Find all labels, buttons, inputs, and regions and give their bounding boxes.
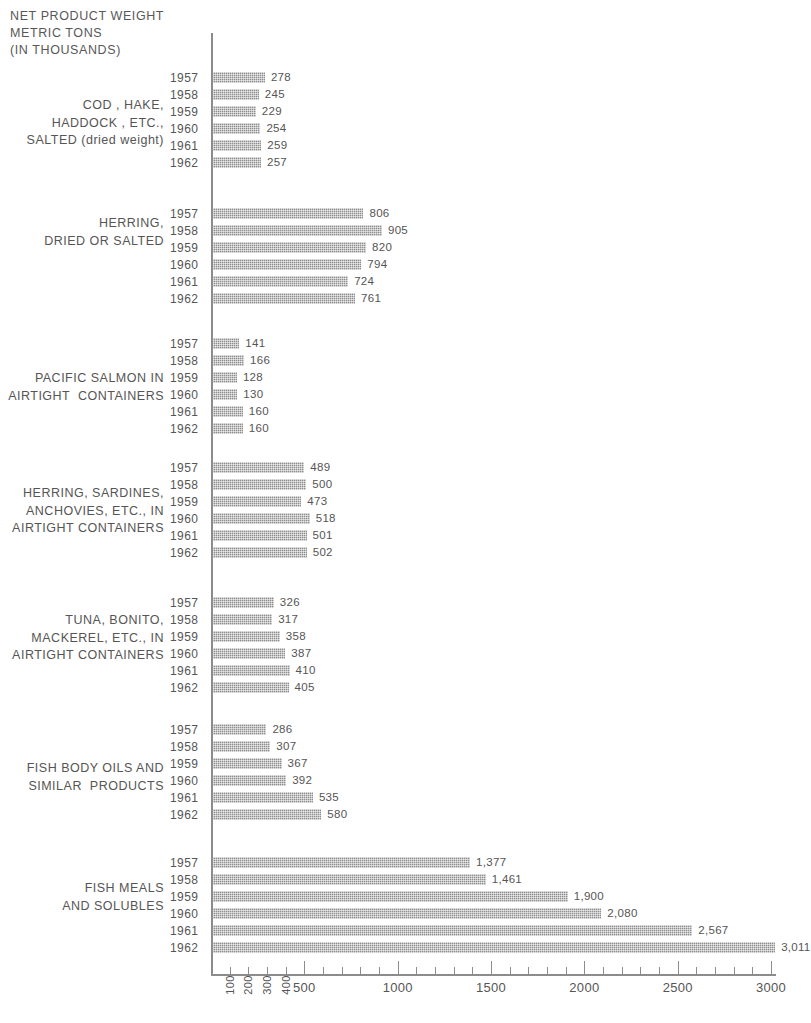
bar bbox=[213, 406, 243, 417]
chart-group: COD , HAKE, HADDOCK , ETC., SALTED (drie… bbox=[0, 70, 796, 172]
bar-value-label: 278 bbox=[271, 71, 291, 83]
bar bbox=[213, 648, 285, 659]
year-label: 1961 bbox=[170, 139, 206, 153]
bar-value-label: 166 bbox=[250, 354, 270, 366]
bar-row: 1960254 bbox=[0, 121, 796, 138]
bar bbox=[213, 338, 239, 349]
bar bbox=[213, 775, 286, 786]
bar-row: 1959820 bbox=[0, 240, 796, 257]
tick-minor bbox=[696, 967, 697, 974]
bar bbox=[213, 758, 282, 769]
year-label: 1960 bbox=[170, 258, 206, 272]
tick-minor bbox=[454, 967, 455, 974]
group-rows: 1957489195850019594731960518196150119625… bbox=[0, 460, 796, 562]
year-label: 1957 bbox=[170, 596, 206, 610]
bar-value-label: 128 bbox=[243, 371, 263, 383]
tick-major bbox=[584, 961, 585, 974]
year-label: 1960 bbox=[170, 388, 206, 402]
bar bbox=[213, 925, 692, 936]
group-rows: 1957806195890519598201960794196172419627… bbox=[0, 206, 796, 308]
tick-major bbox=[491, 961, 492, 974]
year-label: 1962 bbox=[170, 941, 206, 955]
bar-row: 19602,080 bbox=[0, 906, 796, 923]
tick-label: 3000 bbox=[756, 980, 786, 995]
year-label: 1960 bbox=[170, 907, 206, 921]
bar-value-label: 2,567 bbox=[698, 924, 728, 936]
bar-row: 19612,567 bbox=[0, 923, 796, 940]
year-label: 1961 bbox=[170, 791, 206, 805]
bar-value-label: 820 bbox=[372, 241, 392, 253]
tick-label: 500 bbox=[293, 980, 316, 995]
bar bbox=[213, 614, 272, 625]
bar-value-label: 160 bbox=[249, 422, 269, 434]
bar-row: 1959229 bbox=[0, 104, 796, 121]
group-rows: 1957141195816619591281960130196116019621… bbox=[0, 336, 796, 438]
bar-row: 1959367 bbox=[0, 756, 796, 773]
bar-row: 1958905 bbox=[0, 223, 796, 240]
bar-value-label: 761 bbox=[361, 292, 381, 304]
tick-minor bbox=[286, 967, 287, 974]
bar-row: 1957489 bbox=[0, 460, 796, 477]
bar bbox=[213, 891, 568, 902]
year-label: 1959 bbox=[170, 757, 206, 771]
tick-minor bbox=[528, 967, 529, 974]
year-label: 1962 bbox=[170, 156, 206, 170]
bar bbox=[213, 665, 290, 676]
bar bbox=[213, 547, 307, 558]
year-label: 1962 bbox=[170, 681, 206, 695]
bar-row: 1958245 bbox=[0, 87, 796, 104]
year-label: 1959 bbox=[170, 495, 206, 509]
bar-value-label: 3,011 bbox=[781, 941, 810, 953]
bar-value-label: 489 bbox=[310, 461, 330, 473]
group-rows: 1957286195830719593671960392196153519625… bbox=[0, 722, 796, 824]
bar-value-label: 580 bbox=[327, 808, 347, 820]
year-label: 1959 bbox=[170, 890, 206, 904]
bar-value-label: 229 bbox=[262, 105, 282, 117]
bar bbox=[213, 372, 237, 383]
bar-row: 1957141 bbox=[0, 336, 796, 353]
bar-value-label: 245 bbox=[265, 88, 285, 100]
year-label: 1961 bbox=[170, 924, 206, 938]
bar-row: 1962257 bbox=[0, 155, 796, 172]
year-label: 1959 bbox=[170, 241, 206, 255]
year-label: 1960 bbox=[170, 647, 206, 661]
bar-row: 19591,900 bbox=[0, 889, 796, 906]
bar-row: 1960518 bbox=[0, 511, 796, 528]
bar-row: 1959128 bbox=[0, 370, 796, 387]
year-label: 1960 bbox=[170, 122, 206, 136]
tick-label-rotated: 400 bbox=[280, 975, 292, 994]
bar-value-label: 286 bbox=[272, 723, 292, 735]
chart-group: HERRING, SARDINES, ANCHOVIES, ETC., IN A… bbox=[0, 460, 796, 562]
year-label: 1958 bbox=[170, 88, 206, 102]
bar bbox=[213, 293, 355, 304]
year-label: 1961 bbox=[170, 664, 206, 678]
tick-minor bbox=[323, 967, 324, 974]
bar bbox=[213, 496, 301, 507]
year-label: 1958 bbox=[170, 740, 206, 754]
chart-title: NET PRODUCT WEIGHT METRIC TONS (IN THOUS… bbox=[10, 8, 164, 59]
tick-minor bbox=[472, 967, 473, 974]
bar-value-label: 326 bbox=[280, 596, 300, 608]
bar-row: 1957806 bbox=[0, 206, 796, 223]
bar bbox=[213, 157, 261, 168]
bar-row: 1960392 bbox=[0, 773, 796, 790]
bar-value-label: 2,080 bbox=[607, 907, 637, 919]
year-label: 1958 bbox=[170, 613, 206, 627]
year-label: 1961 bbox=[170, 275, 206, 289]
bar-row: 1958500 bbox=[0, 477, 796, 494]
bar-value-label: 535 bbox=[319, 791, 339, 803]
tick-label: 2000 bbox=[569, 980, 599, 995]
tick-minor bbox=[379, 967, 380, 974]
bar bbox=[213, 225, 382, 236]
year-label: 1962 bbox=[170, 422, 206, 436]
tick-minor bbox=[416, 967, 417, 974]
bar-row: 1957278 bbox=[0, 70, 796, 87]
tick-major bbox=[678, 961, 679, 974]
bar-value-label: 317 bbox=[278, 613, 298, 625]
tick-minor bbox=[342, 967, 343, 974]
year-label: 1957 bbox=[170, 461, 206, 475]
bar-row: 1958166 bbox=[0, 353, 796, 370]
tick-minor bbox=[230, 967, 231, 974]
tick-minor bbox=[547, 967, 548, 974]
